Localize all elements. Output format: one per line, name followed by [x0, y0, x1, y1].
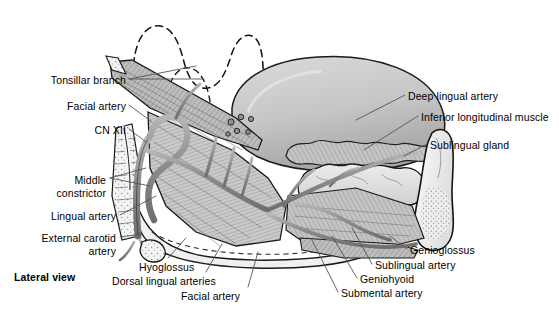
label-submental-artery: Submental artery	[341, 287, 423, 300]
label-lateral-view: Lateral view	[14, 271, 75, 284]
label-facial-artery-lower: Facial artery	[181, 290, 240, 303]
label-inferior-longitudinal-muscle: Inferior longitudinal muscle	[421, 111, 549, 124]
label-facial-artery-upper: Facial artery	[50, 100, 126, 113]
anatomy-illustration	[0, 0, 559, 317]
label-sublingual-gland: Sublingual gland	[430, 139, 509, 152]
label-tonsillar-branch: Tonsillar branch	[30, 74, 126, 87]
label-lingual-artery: Lingual artery	[38, 210, 116, 223]
label-geniohyoid: Geniohyoid	[360, 273, 414, 286]
label-external-carotid-artery: External carotid artery	[28, 232, 116, 257]
label-cn-xii: CN XII	[68, 124, 126, 137]
label-hyoglossus: Hyoglossus	[139, 261, 194, 274]
label-sublingual-artery: Sublingual artery	[375, 259, 456, 272]
label-deep-lingual-artery: Deep lingual artery	[408, 90, 498, 103]
label-dorsal-lingual-arteries: Dorsal lingual arteries	[112, 275, 216, 288]
label-middle-constrictor: Middle constrictor	[44, 174, 106, 199]
label-genioglossus: Genioglossus	[410, 244, 475, 257]
figure-canvas: Tonsillar branch Facial artery CN XII Mi…	[0, 0, 559, 317]
